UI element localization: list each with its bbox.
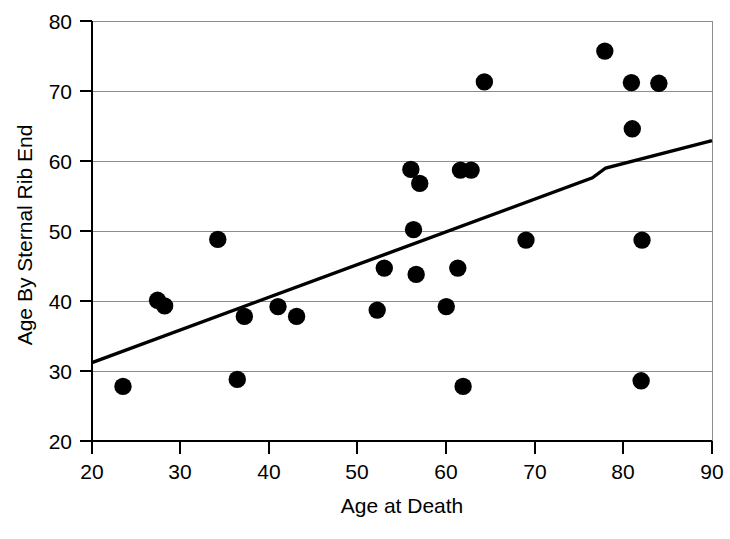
data-point <box>236 308 253 325</box>
y-tick-label-60: 60 <box>49 150 72 173</box>
x-tick-marks <box>92 441 712 454</box>
y-tick-marks <box>80 21 92 441</box>
y-tick-label-50: 50 <box>49 220 72 243</box>
data-point <box>114 378 131 395</box>
x-tick-label-80: 80 <box>611 460 634 483</box>
x-tick-label-40: 40 <box>257 460 280 483</box>
y-tick-label-20: 20 <box>49 430 72 453</box>
data-point <box>407 266 424 283</box>
data-point <box>650 75 667 92</box>
data-point <box>376 259 393 276</box>
x-tick-label-50: 50 <box>345 460 368 483</box>
data-point <box>405 221 422 238</box>
data-point <box>633 231 650 248</box>
chart-svg: 80 70 60 50 40 30 20 20 30 40 50 60 70 <box>0 0 730 539</box>
axis-frame <box>92 21 712 449</box>
x-tick-labels: 20 30 40 50 60 70 80 90 <box>80 460 723 483</box>
y-axis-title: Age By Sternal Rib End <box>13 125 36 346</box>
y-tick-label-40: 40 <box>49 290 72 313</box>
data-point <box>454 378 471 395</box>
trend-line <box>92 141 712 363</box>
data-point <box>449 259 466 276</box>
y-tick-label-30: 30 <box>49 360 72 383</box>
y-tick-labels: 80 70 60 50 40 30 20 <box>49 10 72 453</box>
data-point <box>517 231 534 248</box>
scatter-chart: 80 70 60 50 40 30 20 20 30 40 50 60 70 <box>0 0 730 539</box>
data-point <box>229 371 246 388</box>
data-point <box>438 298 455 315</box>
x-axis-title: Age at Death <box>341 494 464 517</box>
data-point <box>156 297 173 314</box>
y-tick-label-80: 80 <box>49 10 72 33</box>
data-point <box>624 120 641 137</box>
data-point <box>462 161 479 178</box>
x-tick-label-90: 90 <box>700 460 723 483</box>
data-point <box>369 301 386 318</box>
gridlines <box>92 21 712 371</box>
x-tick-label-60: 60 <box>434 460 457 483</box>
data-point <box>632 372 649 389</box>
data-point <box>476 73 493 90</box>
data-point <box>269 298 286 315</box>
x-tick-label-70: 70 <box>523 460 546 483</box>
data-point <box>209 231 226 248</box>
data-point <box>623 74 640 91</box>
x-tick-label-20: 20 <box>80 460 103 483</box>
data-point <box>288 308 305 325</box>
data-point <box>596 42 613 59</box>
data-point <box>411 175 428 192</box>
data-points-group <box>114 42 667 395</box>
x-tick-label-30: 30 <box>168 460 191 483</box>
y-tick-label-70: 70 <box>49 80 72 103</box>
